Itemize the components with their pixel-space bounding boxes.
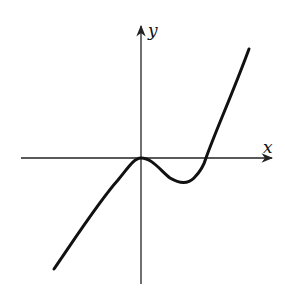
y-axis-label: y bbox=[147, 20, 158, 40]
function-curve bbox=[54, 49, 249, 269]
x-axis-label: x bbox=[263, 137, 273, 157]
function-graph: x y bbox=[0, 0, 285, 296]
